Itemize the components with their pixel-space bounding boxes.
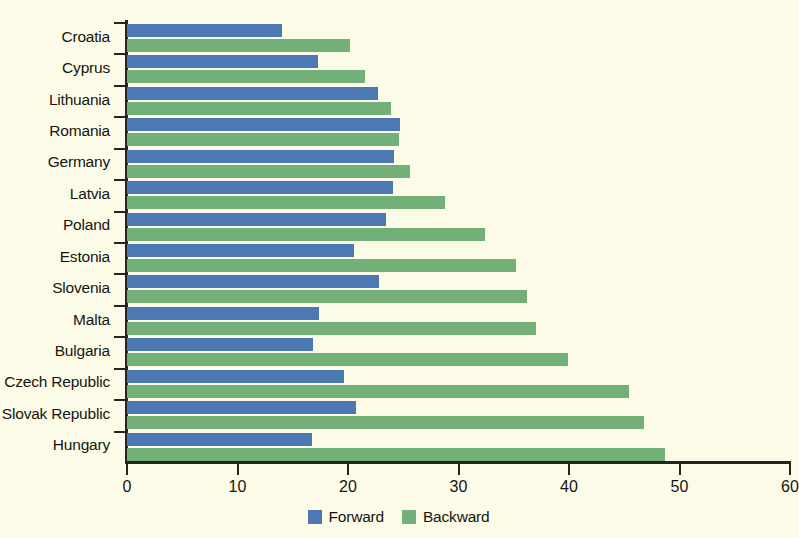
x-axis-tick xyxy=(789,464,791,475)
x-axis-label-10: 10 xyxy=(229,478,247,496)
y-axis-tick xyxy=(114,431,125,433)
bar-group xyxy=(127,87,790,118)
bar-forward-romania xyxy=(127,118,400,131)
x-axis-label-60: 60 xyxy=(781,478,799,496)
x-axis-label-20: 20 xyxy=(339,478,357,496)
bar-forward-bulgaria xyxy=(127,338,313,351)
bar-backward-poland xyxy=(127,228,485,241)
y-axis-label-romania: Romania xyxy=(0,122,110,140)
x-axis-tick xyxy=(347,464,349,475)
x-axis-tick xyxy=(568,464,570,475)
x-axis-label-40: 40 xyxy=(560,478,578,496)
plot-area xyxy=(127,22,790,462)
y-axis-label-estonia: Estonia xyxy=(0,248,110,266)
bar-forward-hungary xyxy=(127,433,312,446)
x-axis-tick xyxy=(126,464,128,475)
y-axis-tick xyxy=(114,85,125,87)
bar-group xyxy=(127,150,790,181)
y-axis-label-czech-republic: Czech Republic xyxy=(0,373,110,391)
x-axis-tick xyxy=(679,464,681,475)
bar-group xyxy=(127,401,790,432)
legend-swatch-backward xyxy=(402,510,416,524)
y-axis-tick xyxy=(114,305,125,307)
y-axis-label-germany: Germany xyxy=(0,153,110,171)
bar-backward-lithuania xyxy=(127,102,391,115)
y-axis-label-latvia: Latvia xyxy=(0,185,110,203)
bar-group xyxy=(127,55,790,86)
y-axis-tick xyxy=(114,179,125,181)
bar-group xyxy=(127,307,790,338)
y-axis-tick xyxy=(114,211,125,213)
legend-label-forward: Forward xyxy=(329,508,384,526)
legend-item-forward: Forward xyxy=(308,508,384,526)
y-axis-label-croatia: Croatia xyxy=(0,28,110,46)
y-axis-tick xyxy=(114,148,125,150)
bar-forward-cyprus xyxy=(127,55,318,68)
bar-forward-czech-republic xyxy=(127,370,344,383)
bar-group xyxy=(127,24,790,55)
y-axis-tick xyxy=(114,22,125,24)
bar-backward-bulgaria xyxy=(127,353,568,366)
x-axis-tick xyxy=(237,464,239,475)
legend-swatch-forward xyxy=(308,510,322,524)
bar-backward-hungary xyxy=(127,448,665,461)
bar-forward-poland xyxy=(127,213,386,226)
bar-backward-estonia xyxy=(127,259,516,272)
bar-group xyxy=(127,338,790,369)
bar-group xyxy=(127,244,790,275)
x-axis-label-50: 50 xyxy=(671,478,689,496)
bar-backward-czech-republic xyxy=(127,385,629,398)
y-axis-label-cyprus: Cyprus xyxy=(0,59,110,77)
x-axis-tick xyxy=(458,464,460,475)
y-axis-tick xyxy=(114,273,125,275)
bar-backward-croatia xyxy=(127,39,350,52)
bar-backward-germany xyxy=(127,165,410,178)
bar-backward-slovenia xyxy=(127,290,527,303)
y-axis-label-poland: Poland xyxy=(0,216,110,234)
y-axis-tick xyxy=(114,242,125,244)
y-axis-tick xyxy=(114,116,125,118)
legend-label-backward: Backward xyxy=(423,508,489,526)
y-axis-tick xyxy=(114,399,125,401)
bar-forward-croatia xyxy=(127,24,282,37)
bar-forward-malta xyxy=(127,307,319,320)
bar-forward-lithuania xyxy=(127,87,378,100)
y-axis-label-slovak-republic: Slovak Republic xyxy=(0,405,110,423)
y-axis-label-malta: Malta xyxy=(0,311,110,329)
bar-backward-romania xyxy=(127,133,399,146)
bar-backward-slovak-republic xyxy=(127,416,644,429)
bar-forward-estonia xyxy=(127,244,354,257)
y-axis-label-bulgaria: Bulgaria xyxy=(0,342,110,360)
x-axis-label-0: 0 xyxy=(123,478,132,496)
bar-group xyxy=(127,213,790,244)
bar-forward-slovak-republic xyxy=(127,401,356,414)
bar-forward-latvia xyxy=(127,181,393,194)
y-axis-tick xyxy=(114,368,125,370)
y-axis-label-hungary: Hungary xyxy=(0,436,110,454)
x-axis-label-30: 30 xyxy=(450,478,468,496)
bar-forward-slovenia xyxy=(127,275,379,288)
y-axis-label-lithuania: Lithuania xyxy=(0,91,110,109)
bar-backward-latvia xyxy=(127,196,445,209)
bar-group xyxy=(127,181,790,212)
bar-group xyxy=(127,370,790,401)
bar-backward-malta xyxy=(127,322,536,335)
chart-legend: ForwardBackward xyxy=(0,508,797,526)
legend-item-backward: Backward xyxy=(402,508,489,526)
y-axis-label-slovenia: Slovenia xyxy=(0,279,110,297)
bar-forward-germany xyxy=(127,150,394,163)
bar-group xyxy=(127,275,790,306)
y-axis-tick xyxy=(114,336,125,338)
y-axis-tick xyxy=(114,53,125,55)
bar-backward-cyprus xyxy=(127,70,365,83)
bar-group xyxy=(127,433,790,464)
bar-group xyxy=(127,118,790,149)
